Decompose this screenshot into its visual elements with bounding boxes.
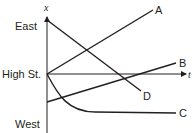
- line-a-label: A: [155, 4, 163, 16]
- line-d-label: D: [143, 90, 151, 102]
- curve-c-label: C: [179, 107, 187, 119]
- x-axis-label: t: [188, 69, 191, 80]
- tick-label-high-st: High St.: [2, 68, 41, 80]
- line-d: [47, 20, 141, 91]
- curve-c: [47, 74, 176, 113]
- line-b-label: B: [179, 57, 186, 69]
- tick-label-west: West: [15, 118, 40, 130]
- y-axis-label: x: [43, 2, 49, 13]
- tick-label-east: East: [15, 20, 37, 32]
- line-a: [47, 10, 153, 74]
- position-time-diagram: x t East High St. West A D B C: [0, 0, 193, 133]
